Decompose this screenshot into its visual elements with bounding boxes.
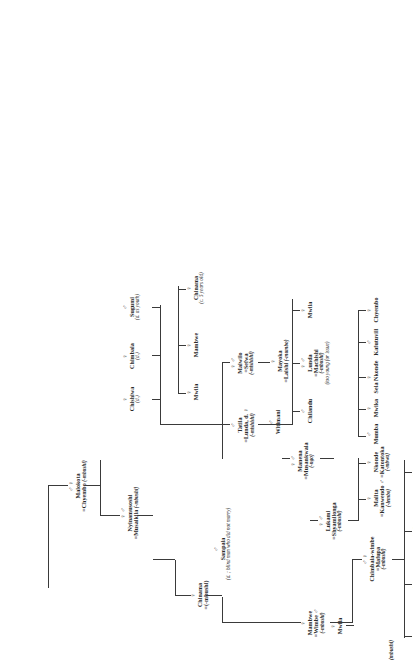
clan-label: (-mishishi): [249, 334, 254, 392]
female-symbol: ♀: [119, 514, 126, 519]
male-symbol: ♂: [299, 409, 306, 414]
person-node: ♂ ♀ Chimbala-wimbe =Mafupa (-mbushi): [362, 528, 387, 590]
descent-line: [152, 355, 160, 356]
sibling-bar: [222, 597, 223, 623]
person-name: Mwila: [193, 372, 199, 412]
person-node: ♀ ♂ Manena =Musankwala (-ngo): [290, 432, 315, 490]
sex-symbols: ♀: [186, 322, 193, 368]
female-symbol: ♀: [361, 553, 368, 558]
descent-line: [100, 515, 120, 516]
rotated-page-wrapper: (mbushi) ♀ Mambwe =Wimbe ♂ (-mbushi) ♀ C…: [0, 0, 413, 668]
female-symbol: ♀: [365, 308, 372, 313]
person-note: (too young for issue): [325, 336, 330, 390]
female-symbol: ♀: [299, 308, 306, 313]
descent-line: [137, 515, 153, 516]
person-node: ♀ Mwila: [186, 372, 199, 412]
sibling-bar: [48, 486, 49, 588]
person-node: ♀ Chinama (c. 5 years old): [186, 260, 204, 316]
female-symbol: ♀: [365, 460, 372, 465]
person-name: Witimani: [275, 398, 281, 446]
male-symbol: ♂: [289, 455, 296, 460]
person-node: ♂ Sampala (d. ; blind man who did not ma…: [213, 518, 231, 580]
female-symbol: ♀: [269, 359, 276, 364]
person-name: Mwila: [337, 606, 343, 646]
sex-symbols: ♂: [213, 518, 220, 580]
clan-label: (-mbushi): [133, 487, 139, 509]
genealogy-chart-canvas: (mbushi) ♀ Mambwe =Wimbe ♂ (-mbushi) ♀ C…: [0, 0, 413, 668]
female-symbol: ♀: [121, 397, 128, 402]
person-name: Chyembo: [373, 286, 379, 334]
female-symbol: ♀: [67, 480, 74, 485]
male-symbol: ♂: [212, 547, 219, 552]
female-symbol: ♀: [329, 624, 336, 629]
descent-line: [270, 424, 292, 425]
sibling-bar: [292, 299, 293, 425]
person-node: ♀ Mwila: [300, 290, 313, 330]
female-symbol: ♀: [242, 407, 249, 412]
spouse-label: =Chyembo: [81, 483, 87, 512]
sex-symbols: ♂: [230, 394, 237, 456]
sibling-bar: [358, 458, 359, 502]
person-note: (d. ; blind man who did not marry): [226, 518, 231, 580]
person-note: (c. 5 years old): [199, 260, 204, 316]
female-symbol: ♀: [299, 364, 306, 369]
clan-label: (-mbushi): [337, 490, 342, 552]
clan-label: (-mishishi): [250, 394, 255, 456]
person-note: (d.): [135, 332, 140, 380]
trunk-line: [160, 424, 222, 425]
sibling-bar: [100, 460, 101, 516]
male-symbol: ♂: [67, 487, 74, 492]
sex-symbols: ♀ ♂: [318, 490, 325, 552]
male-symbol: ♂: [121, 305, 128, 310]
person-name: Mambwe: [193, 322, 199, 368]
female-symbol: ♀: [317, 522, 324, 527]
clan-label: (-mumbo): [283, 339, 289, 361]
person-node: ♂ Witimani: [268, 398, 281, 446]
descent-line: [85, 485, 100, 486]
descent-line: [392, 559, 404, 560]
person-node: ♀ Chyembo: [366, 286, 379, 334]
sex-symbols: ♀: [122, 332, 129, 380]
sex-symbols: ♂ ♀: [362, 528, 369, 590]
person-node: ♀ ♂ Lunda =Machishi (-mbushi) (too young…: [300, 336, 330, 390]
female-symbol: ♀: [289, 462, 296, 467]
sex-symbols: ♀: [122, 376, 129, 422]
sibling-bar: [404, 460, 405, 638]
clan-label: (-ngo): [309, 432, 314, 490]
person-node: ♀ ♂ Malwilo =Sefwa (-mishishi): [230, 334, 255, 392]
clan-label: (-mbwa): [385, 434, 390, 490]
descent-line: [404, 531, 412, 532]
spouse-name: =Chyembo (-mbushi): [81, 450, 87, 522]
sex-symbols: ♀: [186, 372, 193, 412]
descent-line: [292, 622, 301, 623]
sex-symbols: ♀ ♂: [300, 336, 307, 390]
female-symbol: ♀: [185, 343, 192, 348]
descent-line: [310, 520, 318, 521]
descent-line: [282, 458, 290, 459]
clan-label: (-mbushi): [381, 528, 386, 590]
descent-line: [152, 399, 160, 400]
male-symbol: ♂: [317, 515, 324, 520]
trunk-line: [222, 622, 292, 623]
sex-symbols: ♀ ♂: [120, 478, 127, 548]
sex-symbols: ♂: [122, 278, 129, 336]
descent-line: [404, 584, 412, 585]
sibling-bar: [358, 311, 359, 437]
male-symbol: ♂: [229, 423, 236, 428]
descent-line: [320, 458, 334, 459]
spouse-label: =Laishi: [283, 363, 289, 383]
sibling-bar: [160, 305, 161, 425]
sex-symbols: ♀ ♂: [290, 432, 297, 490]
spouse-name: =Musaikila (-mbushi): [133, 478, 139, 548]
person-node: ♂ ♀ Malokota =Chyembo (-mbushi): [68, 450, 87, 522]
sex-symbols: ♀ ♂: [230, 334, 237, 392]
clan-label: (-mbushi): [81, 460, 87, 482]
sex-symbols: ♀: [366, 286, 373, 334]
male-symbol: ♂: [229, 357, 236, 362]
female-symbol: ♀: [185, 286, 192, 291]
sex-symbols: ♀: [186, 260, 193, 316]
person-node: ♂ Sugumi (d. as youth): [122, 278, 140, 336]
sex-symbols: ♂ ♀: [68, 450, 75, 522]
descent-line: [153, 559, 175, 560]
female-symbol: ♀: [121, 354, 128, 359]
